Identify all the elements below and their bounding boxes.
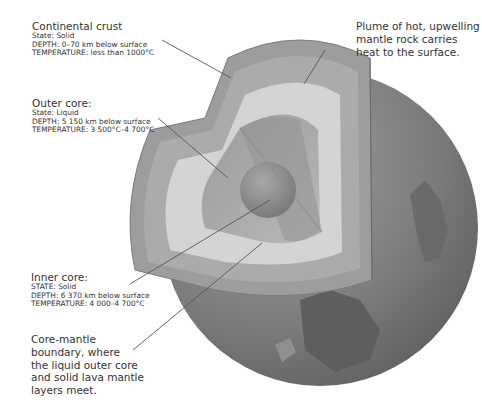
label-core-mantle-boundary: Core-mantle boundary, where the liquid o… (31, 333, 144, 397)
label-line: heat to the surface. (356, 46, 480, 59)
label-line: Plume of hot, upwelling (356, 20, 480, 33)
inner-core (240, 162, 296, 218)
label-temperature: TEMPERATURE: 4 000–4 700°C (31, 300, 150, 309)
label-inner-core: Inner core: STATE: Solid DEPTH: 6 370 km… (31, 271, 150, 309)
label-continental-crust: Continental crust State: Solid DEPTH: 0–… (32, 20, 154, 58)
label-plume: Plume of hot, upwelling mantle rock carr… (356, 20, 480, 58)
label-line: Core-mantle (31, 333, 144, 346)
label-temperature: TEMPERATURE: less than 1000°C (32, 49, 154, 58)
label-line: the liquid outer core (31, 359, 144, 372)
label-line: and solid lava mantle (31, 371, 144, 384)
label-line: mantle rock carries (356, 33, 480, 46)
leader-continental-crust (162, 40, 231, 78)
label-line: layers meet. (31, 384, 144, 397)
cutaway-section (130, 40, 372, 296)
label-temperature: TEMPERATURE: 3 500°C–4 700°C (32, 126, 154, 135)
label-outer-core: Outer core: State: Liquid DEPTH: 5 150 k… (32, 97, 154, 135)
label-line: boundary, where (31, 346, 144, 359)
